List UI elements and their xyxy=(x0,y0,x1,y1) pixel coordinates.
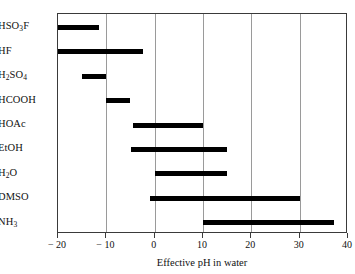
x-tick--20 xyxy=(57,233,58,238)
bar-hso3f xyxy=(58,25,99,30)
bar-h2so4 xyxy=(82,74,106,79)
x-tick-10 xyxy=(202,233,203,238)
x-tick--10 xyxy=(105,233,106,238)
x-tick-label-0: 0 xyxy=(134,239,174,251)
bar-hf xyxy=(58,49,143,54)
x-axis-title: Effective pH in water xyxy=(57,256,347,269)
bar-nh3 xyxy=(203,220,334,225)
x-tick-label-40: 40 xyxy=(327,239,355,251)
x-tick-0 xyxy=(154,233,155,238)
category-label-etoh: EtOH xyxy=(0,142,50,153)
bar-h2o xyxy=(155,171,228,176)
bar-etoh xyxy=(131,147,228,152)
category-label-hoac: HOAc xyxy=(0,118,50,129)
x-tick-label-10: 10 xyxy=(182,239,222,251)
category-label-hso3f: HSO3F xyxy=(0,20,50,31)
bar-hoac xyxy=(133,123,203,128)
plot-area xyxy=(57,13,347,233)
category-label-hcooh: HCOOH xyxy=(0,94,50,105)
x-tick-40 xyxy=(347,233,348,238)
x-tick-20 xyxy=(250,233,251,238)
bar-dmso xyxy=(150,196,300,201)
category-label-hf: HF xyxy=(0,45,50,56)
category-label-dmso: DMSO xyxy=(0,191,50,202)
x-tick-label-20: 20 xyxy=(230,239,270,251)
category-label-h2o: H2O xyxy=(0,167,50,178)
bar-hcooh xyxy=(106,98,130,103)
x-tick-label-30: 30 xyxy=(279,239,319,251)
x-tick-label--20: − 20 xyxy=(37,239,77,251)
x-tick-label--10: − 10 xyxy=(85,239,125,251)
x-tick-30 xyxy=(299,233,300,238)
plot-inner xyxy=(58,14,346,232)
gridline-30 xyxy=(300,14,301,232)
category-label-h2so4: H2SO4 xyxy=(0,69,50,80)
category-axis-labels: HSO3FHFH2SO4HCOOHHOAcEtOHH2ODMSONH3 xyxy=(0,13,54,233)
gridline--10 xyxy=(106,14,107,232)
category-label-nh3: NH3 xyxy=(0,216,50,227)
ph-range-chart: HSO3FHFH2SO4HCOOHHOAcEtOHH2ODMSONH3 − 20… xyxy=(0,0,355,274)
